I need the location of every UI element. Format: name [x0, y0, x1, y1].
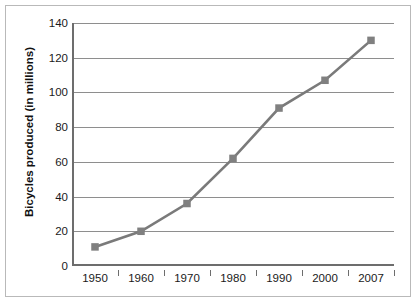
x-axis-tick-label: 1980 [220, 272, 246, 284]
x-axis-tick-label: 1970 [174, 272, 200, 284]
data-point-marker [183, 200, 191, 208]
y-axis-tick-label: 100 [49, 86, 68, 98]
data-series-bicycles-produced [72, 23, 394, 266]
data-point-marker [91, 243, 99, 251]
chart-frame: Bicycles produced (in millions) 02040608… [5, 5, 411, 297]
x-axis-tick-label: 1950 [82, 272, 108, 284]
x-axis-tick-mark [256, 270, 257, 276]
y-axis-tick-label: 0 [62, 260, 68, 272]
data-point-marker [137, 228, 145, 236]
data-point-marker [229, 155, 237, 163]
x-axis-tick-label: 2000 [312, 272, 338, 284]
y-axis-tick-label: 80 [55, 121, 68, 133]
series-line [95, 40, 371, 247]
x-axis-tick-mark [118, 270, 119, 276]
y-axis-tick-label: 60 [55, 156, 68, 168]
y-axis-tick-label: 120 [49, 52, 68, 64]
x-axis-tick-mark [302, 270, 303, 276]
x-axis-tick-mark [164, 270, 165, 276]
x-axis-tick-label: 1960 [128, 272, 154, 284]
y-axis-tick-labels: 020406080100120140 [32, 23, 68, 266]
x-axis-tick-label: 1990 [266, 272, 292, 284]
y-axis-tick-label: 20 [55, 225, 68, 237]
data-point-marker [321, 77, 329, 85]
y-axis-tick-label: 40 [55, 191, 68, 203]
y-axis-tick-label: 140 [49, 17, 68, 29]
line-chart: Bicycles produced (in millions) 02040608… [6, 6, 412, 298]
data-point-marker [275, 104, 283, 112]
x-axis-tick-labels: 1950196019701980199020002007 [72, 270, 394, 292]
x-axis-tick-mark [210, 270, 211, 276]
x-axis-tick-mark [348, 270, 349, 276]
x-axis-tick-mark [394, 270, 395, 276]
x-axis-tick-label: 2007 [358, 272, 384, 284]
data-point-marker [367, 37, 375, 45]
